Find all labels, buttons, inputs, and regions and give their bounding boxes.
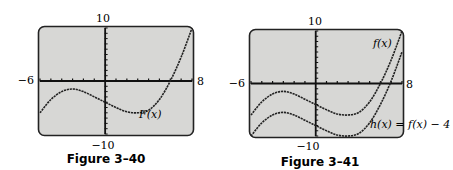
xmin-label: −6 bbox=[229, 77, 245, 90]
figure-caption: Figure 3–41 bbox=[281, 155, 360, 169]
xmax-label: 8 bbox=[197, 75, 204, 88]
figure-3-40: 10 −10 −6 8 F(x) Figure 3–40 bbox=[0, 0, 226, 170]
xmin-label: −6 bbox=[18, 74, 34, 87]
xmax-label: 8 bbox=[406, 78, 413, 91]
figure-3-40-plot: 10 −10 −6 8 F(x) Figure 3–40 bbox=[0, 0, 226, 170]
curve-label-h: h(x) = f(x) − 4 bbox=[370, 118, 450, 131]
ymax-label: 10 bbox=[96, 12, 110, 25]
curve-label-F: F(x) bbox=[138, 108, 161, 121]
ymax-label: 10 bbox=[308, 15, 322, 28]
ymin-label: −10 bbox=[91, 139, 114, 152]
figure-caption: Figure 3–40 bbox=[67, 152, 146, 166]
figure-3-41-plot: 10 −10 −6 8 f(x) h(x) = f(x) − 4 Figure … bbox=[220, 0, 453, 170]
ymin-label: −10 bbox=[296, 140, 319, 153]
curve-label-f: f(x) bbox=[372, 37, 392, 50]
figure-3-41: 10 −10 −6 8 f(x) h(x) = f(x) − 4 Figure … bbox=[220, 0, 453, 170]
